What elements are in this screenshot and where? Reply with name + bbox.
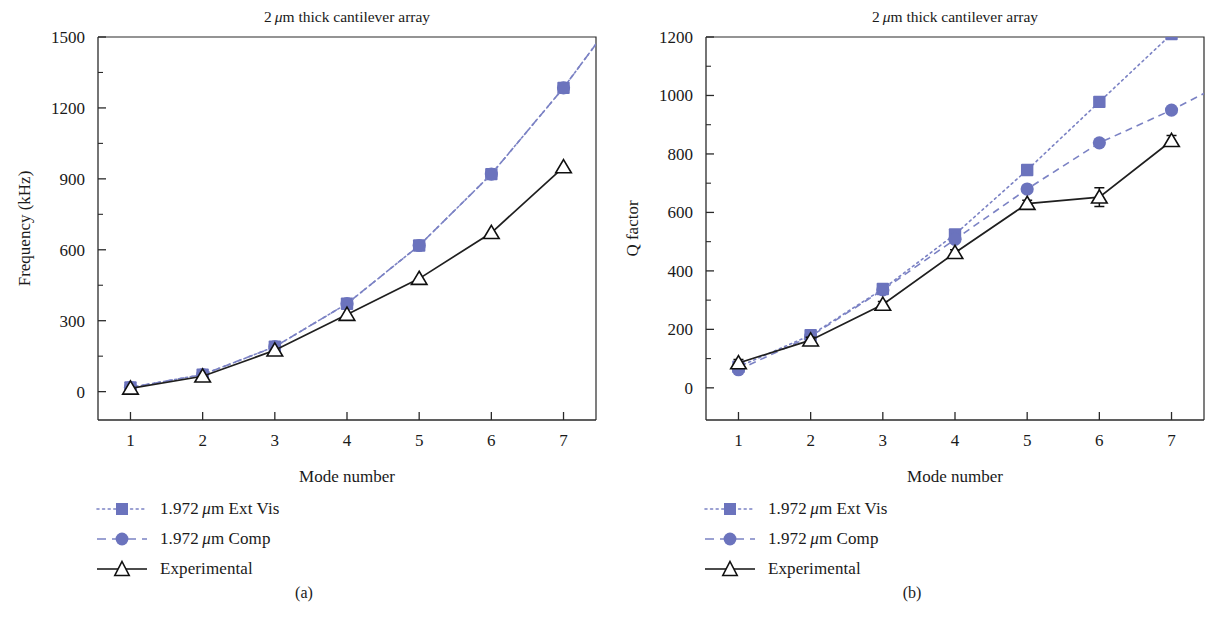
series-line-ext-vis [130, 34, 603, 387]
y-axis-title: Q factor [623, 200, 642, 257]
legend-item-experimental[interactable]: Experimental [704, 554, 1034, 584]
title-prefix: 2 [264, 8, 275, 25]
legend-item-ext-vis[interactable]: 1.972 μm Ext Vis [704, 494, 1034, 524]
y-tick-label: 400 [668, 262, 694, 281]
panel-caption-b: (b) [608, 584, 1216, 602]
marker-triangle-experimental [875, 297, 891, 310]
x-tick-label: 2 [198, 431, 207, 450]
dotted-square-key-icon [96, 498, 148, 520]
panel-a: 0300600900120015001234567Mode numberFreq… [0, 0, 608, 619]
plot-frame [98, 37, 596, 420]
panel-a-plot: 0300600900120015001234567Mode numberFreq… [0, 0, 608, 470]
title-prefix: 2 [872, 8, 883, 25]
x-tick-label: 5 [1023, 431, 1032, 450]
marker-circle-comp [413, 239, 426, 252]
chart-a-svg: 0300600900120015001234567Mode numberFreq… [0, 0, 608, 470]
y-axis-title: Frequency (kHz) [15, 171, 34, 287]
y-tick-label: 0 [685, 379, 694, 398]
legend-label-experimental: Experimental [160, 559, 253, 579]
title-mu: μ [274, 8, 283, 25]
x-axis-title: Mode number [907, 467, 1003, 486]
y-tick-label: 200 [668, 320, 694, 339]
series-line-experimental [130, 167, 563, 388]
y-tick-label: 1500 [51, 28, 85, 47]
legend-item-ext-vis[interactable]: 1.972 μm Ext Vis [96, 494, 426, 524]
x-tick-label: 3 [879, 431, 888, 450]
legend-item-comp[interactable]: 1.972 μm Comp [96, 524, 426, 554]
marker-triangle-experimental [947, 245, 963, 258]
legend-label-comp: 1.972 μm Comp [768, 529, 879, 549]
y-tick-label: 600 [60, 241, 86, 260]
x-axis-title: Mode number [299, 467, 395, 486]
title-suffix: m thick cantilever array [283, 8, 431, 25]
x-tick-label: 5 [415, 431, 424, 450]
marker-circle-comp [557, 81, 570, 94]
marker-triangle-experimental [1164, 133, 1180, 146]
legend-label-ext-vis: 1.972 μm Ext Vis [768, 499, 887, 519]
marker-circle-comp [876, 283, 889, 296]
y-tick-label: 900 [60, 170, 86, 189]
y-tick-label: 800 [668, 145, 694, 164]
dotted-square-key-icon [704, 498, 756, 520]
marker-square-ext-vis [1021, 164, 1033, 176]
legend-label-comp: 1.972 μm Comp [160, 529, 271, 549]
x-tick-label: 7 [1167, 431, 1176, 450]
x-tick-label: 7 [559, 431, 568, 450]
x-tick-label: 1 [734, 431, 743, 450]
legend-label-ext-vis: 1.972 μm Ext Vis [160, 499, 279, 519]
x-tick-label: 4 [343, 431, 352, 450]
legend-item-comp[interactable]: 1.972 μm Comp [704, 524, 1034, 554]
y-tick-label: 1200 [659, 28, 693, 47]
series-group [123, 34, 604, 394]
marker-triangle-experimental [1092, 190, 1108, 203]
legend-label-experimental: Experimental [768, 559, 861, 579]
marker-circle-comp [1093, 136, 1106, 149]
title-mu: μ [882, 8, 891, 25]
dashed-circle-key-icon [704, 528, 756, 550]
marker-triangle-experimental [411, 271, 427, 284]
figure-root: 0300600900120015001234567Mode numberFreq… [0, 0, 1217, 619]
solid-triangle-key-icon [704, 558, 756, 580]
y-tick-label: 1000 [659, 86, 693, 105]
chart-title: 2 μm thick cantilever array [872, 8, 1038, 25]
marker-triangle-experimental [556, 160, 572, 173]
marker-square-ext-vis [1093, 96, 1105, 108]
title-suffix: m thick cantilever array [891, 8, 1039, 25]
marker-square-ext-vis [1165, 28, 1177, 40]
x-tick-label: 1 [126, 431, 135, 450]
marker-circle-comp [1165, 103, 1178, 116]
y-tick-label: 1200 [51, 99, 85, 118]
chart-title: 2 μm thick cantilever array [264, 8, 430, 25]
x-tick-label: 4 [951, 431, 960, 450]
y-tick-label: 300 [60, 312, 86, 331]
marker-circle-comp [1021, 182, 1034, 195]
solid-triangle-key-icon [96, 558, 148, 580]
x-tick-label: 2 [806, 431, 815, 450]
series-line-comp [130, 34, 603, 387]
panel-b-plot: 0200400600800100012001234567Mode numberQ… [608, 0, 1216, 470]
panel-caption-a: (a) [0, 584, 608, 602]
x-tick-label: 6 [487, 431, 496, 450]
legend-a: 1.972 μm Ext Vis 1.972 μm Comp Experimen… [96, 494, 426, 584]
series-group [731, 0, 1212, 376]
panel-b: 0200400600800100012001234567Mode numberQ… [608, 0, 1216, 619]
x-tick-label: 6 [1095, 431, 1104, 450]
dashed-circle-key-icon [96, 528, 148, 550]
legend-item-experimental[interactable]: Experimental [96, 554, 426, 584]
legend-b: 1.972 μm Ext Vis 1.972 μm Comp Experimen… [704, 494, 1034, 584]
chart-b-svg: 0200400600800100012001234567Mode numberQ… [608, 0, 1216, 470]
series-line-comp [738, 90, 1211, 370]
x-tick-label: 3 [271, 431, 280, 450]
series-line-ext-vis [738, 0, 1211, 367]
marker-circle-comp [485, 168, 498, 181]
y-tick-label: 0 [77, 383, 86, 402]
y-tick-label: 600 [668, 203, 694, 222]
